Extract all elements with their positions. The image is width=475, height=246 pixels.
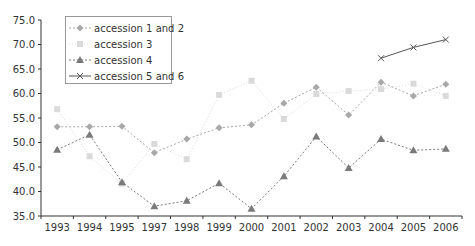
diamond-marker [345, 112, 352, 119]
square-marker [216, 92, 222, 98]
square-marker [184, 156, 190, 162]
series-line [57, 82, 446, 153]
y-tick-label: 55.0 [13, 113, 35, 124]
x-tick-label: 2000 [239, 222, 264, 233]
x-tick-label: 1997 [142, 222, 167, 233]
square-marker [77, 41, 83, 47]
y-tick-label: 70.0 [13, 39, 35, 50]
y-tick-label: 65.0 [13, 64, 35, 75]
diamond-marker [183, 136, 190, 143]
triangle-marker [280, 172, 288, 179]
y-tick-label: 75.0 [13, 15, 35, 26]
series-accession-5-and-6 [378, 37, 449, 62]
square-marker [346, 88, 352, 94]
triangle-marker [312, 133, 320, 140]
x-tick-label: 2005 [401, 222, 426, 233]
line-chart: 35.040.045.050.055.060.065.070.075.01993… [0, 0, 475, 246]
series-line [57, 135, 446, 209]
triangle-marker [53, 146, 61, 153]
square-marker [249, 78, 255, 84]
diamond-marker [151, 149, 158, 156]
square-marker [378, 86, 384, 92]
square-marker [443, 93, 449, 99]
series-accession-4 [53, 131, 450, 212]
y-tick-label: 40.0 [13, 186, 35, 197]
x-tick-label: 2006 [433, 222, 458, 233]
y-tick-label: 35.0 [13, 211, 35, 222]
legend-label: accession 4 [94, 55, 152, 66]
series-accession-1-and-2 [54, 79, 450, 157]
square-marker [151, 141, 157, 147]
x-marker [378, 55, 384, 61]
triangle-marker [215, 179, 223, 186]
x-tick-label: 1993 [44, 222, 69, 233]
square-marker [54, 106, 60, 112]
triangle-marker [377, 135, 385, 142]
diamond-marker [280, 100, 287, 107]
diamond-marker [313, 84, 320, 91]
series-line [57, 81, 446, 184]
diamond-marker [216, 124, 223, 131]
y-tick-label: 45.0 [13, 162, 35, 173]
square-marker [281, 116, 287, 122]
diamond-marker [248, 121, 255, 128]
series-accession-3 [54, 78, 449, 187]
square-marker [313, 91, 319, 97]
chart-canvas: 35.040.045.050.055.060.065.070.075.01993… [0, 0, 475, 246]
triangle-marker [183, 197, 191, 204]
legend: accession 1 and 2accession 3accession 4a… [66, 17, 185, 84]
x-tick-label: 1998 [174, 222, 199, 233]
y-tick-label: 60.0 [13, 88, 35, 99]
x-tick-label: 1999 [206, 222, 231, 233]
x-tick-label: 2004 [368, 222, 393, 233]
diamond-marker [86, 123, 93, 130]
diamond-marker [410, 92, 417, 99]
triangle-marker [442, 145, 450, 152]
legend-label: accession 3 [94, 39, 152, 50]
y-tick-label: 50.0 [13, 137, 35, 148]
x-tick-label: 2003 [336, 222, 361, 233]
x-tick-label: 1994 [77, 222, 102, 233]
legend-label: accession 5 and 6 [94, 71, 184, 82]
diamond-marker [54, 123, 61, 130]
series-line [381, 40, 446, 59]
square-marker [410, 81, 416, 87]
square-marker [87, 153, 93, 159]
legend-label: accession 1 and 2 [94, 23, 184, 34]
triangle-marker [86, 131, 94, 138]
x-marker [410, 44, 416, 50]
diamond-marker [442, 81, 449, 88]
triangle-marker [345, 164, 353, 171]
x-tick-label: 2002 [304, 222, 329, 233]
x-tick-label: 2001 [271, 222, 296, 233]
x-tick-label: 1995 [109, 222, 134, 233]
